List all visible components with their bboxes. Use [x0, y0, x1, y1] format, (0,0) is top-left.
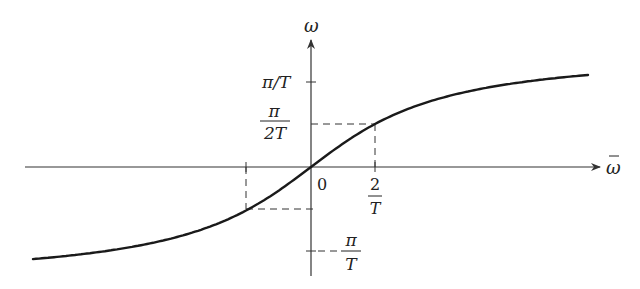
svg-text:ω: ω [606, 157, 621, 178]
origin-label: 0 [317, 175, 327, 194]
svg-text:T: T [345, 254, 358, 274]
x-tick-label-2-over-T: 2 T [368, 175, 382, 218]
svg-text:T: T [370, 199, 382, 218]
y-tick-label-pi-over-2T: π 2T [260, 101, 290, 143]
svg-text:π: π [344, 230, 357, 250]
omega-bar-axis-label: ω [606, 156, 621, 178]
svg-text:π: π [267, 101, 280, 121]
svg-text:2T: 2T [263, 123, 288, 143]
svg-text:2: 2 [370, 175, 380, 194]
warping-diagram: ω ω 0 π/T π 2T 2 T π T [0, 0, 640, 289]
y-tick-label-pi-over-T: π/T [261, 72, 292, 92]
y-tick-label-minus-pi-over-T: π T [341, 230, 361, 274]
omega-axis-label: ω [304, 15, 319, 36]
